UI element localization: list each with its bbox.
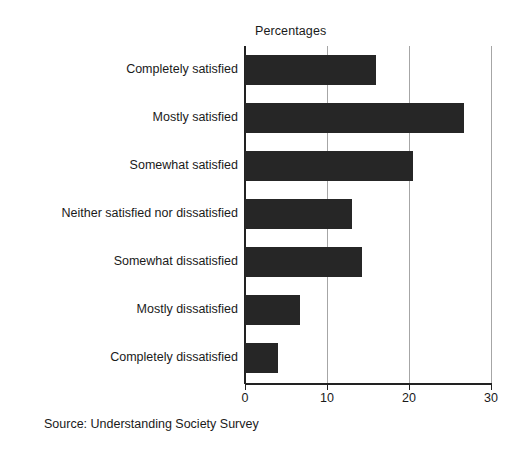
x-tick-label-0: 0	[225, 391, 265, 405]
bar	[245, 295, 300, 325]
category-label: Somewhat satisfied	[0, 158, 238, 172]
category-label: Somewhat dissatisfied	[0, 254, 238, 268]
category-label: Mostly dissatisfied	[0, 302, 238, 316]
bar-row	[245, 334, 491, 382]
category-label: Mostly satisfied	[0, 110, 238, 124]
chart-title: Percentages	[255, 24, 326, 38]
bar-row	[245, 286, 491, 334]
bar	[245, 247, 362, 277]
bar-row	[245, 46, 491, 94]
bar-row	[245, 190, 491, 238]
gridline-30	[491, 46, 492, 383]
bar	[245, 55, 376, 85]
x-tick-label-20: 20	[389, 391, 429, 405]
x-tick-label-30: 30	[471, 391, 511, 405]
bar	[245, 151, 413, 181]
bar-row	[245, 238, 491, 286]
category-label: Neither satisfied nor dissatisfied	[0, 206, 238, 220]
bar-chart: Percentages Completely satisfiedMostly s…	[0, 0, 524, 449]
x-tick-20	[409, 385, 410, 390]
bar	[245, 199, 352, 229]
bar-row	[245, 142, 491, 190]
bar-row	[245, 94, 491, 142]
bar	[245, 343, 278, 373]
x-tick-label-10: 10	[307, 391, 347, 405]
source-note: Source: Understanding Society Survey	[44, 417, 259, 431]
x-tick-30	[491, 385, 492, 390]
x-axis-line	[245, 383, 492, 385]
category-label: Completely dissatisfied	[0, 350, 238, 364]
category-label: Completely satisfied	[0, 62, 238, 76]
x-tick-0	[245, 385, 246, 390]
bar	[245, 103, 464, 133]
x-tick-10	[327, 385, 328, 390]
